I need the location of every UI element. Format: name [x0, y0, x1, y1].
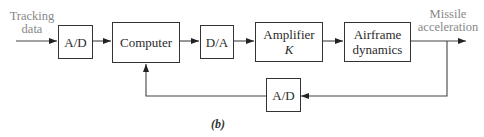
block-airframe: Airframe dynamics	[344, 22, 411, 62]
output-label: Missile acceleration	[412, 8, 484, 34]
block-adc-forward: A/D	[58, 25, 93, 59]
output-label-line2: acceleration	[412, 21, 484, 34]
feedback-to-computer	[146, 64, 266, 96]
block-label: Computer	[120, 35, 172, 50]
block-sublabel-gain: K	[285, 42, 294, 57]
figure-caption: (b)	[211, 117, 225, 132]
block-adc-feedback: A/D	[266, 78, 301, 112]
block-label: Airframe	[354, 27, 402, 42]
block-sublabel: dynamics	[353, 42, 403, 57]
block-computer: Computer	[112, 22, 180, 63]
block-amplifier: Amplifier K	[255, 22, 323, 62]
input-label: Tracking data	[6, 10, 58, 36]
block-dac: D/A	[200, 25, 234, 59]
block-label: D/A	[206, 35, 228, 50]
block-label: A/D	[64, 35, 86, 50]
input-label-line2: data	[6, 23, 58, 36]
block-label: Amplifier	[263, 27, 314, 42]
block-label: A/D	[272, 88, 294, 103]
